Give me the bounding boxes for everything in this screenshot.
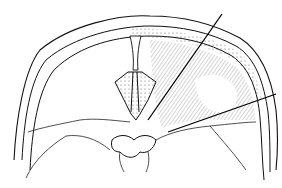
skull-drawing bbox=[0, 0, 282, 188]
left-middle-fossa-line bbox=[26, 136, 110, 178]
crista-galli bbox=[130, 36, 141, 70]
sella-turcica bbox=[111, 136, 156, 158]
cribriform-plate bbox=[115, 72, 156, 120]
left-sphenoid-ridge bbox=[28, 119, 130, 132]
anatomical-figure bbox=[0, 0, 282, 188]
right-middle-fossa-line bbox=[210, 126, 246, 170]
